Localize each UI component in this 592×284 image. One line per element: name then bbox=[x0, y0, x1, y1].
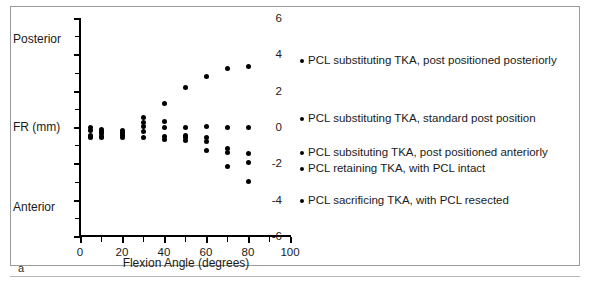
y-axis-tick bbox=[74, 163, 80, 165]
legend-item-label: PCL substituting TKA, standard post posi… bbox=[308, 112, 536, 125]
y-axis-tick-label: -4 bbox=[272, 194, 282, 206]
data-point bbox=[204, 139, 209, 144]
y-axis-tick bbox=[74, 18, 80, 20]
data-point bbox=[246, 179, 251, 184]
data-point bbox=[246, 151, 251, 156]
data-point bbox=[225, 164, 230, 169]
legend-item-label: PCL retaining TKA, with PCL intact bbox=[308, 162, 485, 175]
data-point bbox=[120, 135, 125, 140]
data-point bbox=[120, 130, 125, 135]
x-axis-tick bbox=[248, 237, 250, 243]
data-point bbox=[246, 125, 251, 130]
x-axis-minor-tick bbox=[101, 237, 102, 242]
data-point bbox=[225, 125, 230, 130]
panel-letter-label: a bbox=[18, 262, 24, 274]
data-point bbox=[141, 120, 146, 125]
y-axis-minor-tick bbox=[75, 182, 80, 183]
y-axis-tick bbox=[74, 54, 80, 56]
axis-direction-label-posterior: Posterior bbox=[13, 32, 61, 46]
data-point bbox=[99, 135, 104, 140]
y-axis-tick-label: 0 bbox=[276, 121, 282, 133]
y-axis-tick-label: -6 bbox=[272, 230, 282, 242]
data-point bbox=[141, 129, 146, 134]
x-axis-title: Flexion Angle (degrees) bbox=[80, 256, 292, 270]
x-axis-tick bbox=[80, 237, 82, 243]
x-axis-tick bbox=[122, 237, 124, 243]
x-axis-minor-tick bbox=[227, 237, 228, 242]
data-point bbox=[204, 74, 209, 79]
legend-item: PCL retaining TKA, with PCL intact bbox=[300, 162, 485, 175]
y-axis-tick-label: 6 bbox=[276, 12, 282, 24]
data-point bbox=[162, 101, 167, 106]
legend-item: PCL substituting TKA, post positioned po… bbox=[300, 54, 557, 67]
x-axis-tick bbox=[206, 237, 208, 243]
legend-marker-icon bbox=[300, 59, 304, 63]
y-axis-minor-tick bbox=[75, 109, 80, 110]
data-point bbox=[204, 124, 209, 129]
y-axis-tick-label: 4 bbox=[276, 48, 282, 60]
data-point bbox=[246, 160, 251, 165]
data-point bbox=[141, 135, 146, 140]
legend-item: PCL substituting TKA, standard post posi… bbox=[300, 112, 536, 125]
axis-direction-label-anterior: Anterior bbox=[13, 200, 55, 214]
data-point bbox=[246, 64, 251, 69]
legend-item-label: PCL substituting TKA, post positioned po… bbox=[308, 54, 557, 67]
y-axis-tick bbox=[74, 91, 80, 93]
x-axis-minor-tick bbox=[269, 237, 270, 242]
y-axis-minor-tick bbox=[75, 73, 80, 74]
legend-marker-icon bbox=[300, 151, 304, 155]
data-point bbox=[204, 148, 209, 153]
y-axis-tick-label: -2 bbox=[272, 157, 282, 169]
y-axis-tick bbox=[74, 127, 80, 129]
y-axis-minor-tick bbox=[75, 145, 80, 146]
y-axis-minor-tick bbox=[75, 36, 80, 37]
y-axis-title: FR (mm) bbox=[13, 120, 60, 134]
legend-item-label: PCL subsituting TKA, post positioned ant… bbox=[308, 146, 548, 159]
y-axis-tick bbox=[74, 200, 80, 202]
x-axis-minor-tick bbox=[185, 237, 186, 242]
data-point bbox=[183, 85, 188, 90]
y-axis-tick-label: 2 bbox=[276, 85, 282, 97]
data-point bbox=[162, 137, 167, 142]
legend-item: PCL sacrificing TKA, with PCL resected bbox=[300, 194, 509, 207]
data-point bbox=[162, 119, 167, 124]
x-axis-tick bbox=[164, 237, 166, 243]
x-axis-tick bbox=[290, 237, 292, 243]
data-point bbox=[183, 138, 188, 143]
legend-item-label: PCL sacrificing TKA, with PCL resected bbox=[308, 194, 509, 207]
y-axis-minor-tick bbox=[75, 218, 80, 219]
legend-marker-icon bbox=[300, 117, 304, 121]
data-point bbox=[88, 134, 93, 139]
data-point bbox=[99, 129, 104, 134]
bottom-divider-rule bbox=[10, 276, 580, 277]
x-axis-minor-tick bbox=[143, 237, 144, 242]
data-point bbox=[225, 66, 230, 71]
data-point bbox=[183, 125, 188, 130]
legend-item: PCL subsituting TKA, post positioned ant… bbox=[300, 146, 548, 159]
data-point bbox=[162, 125, 167, 130]
legend-marker-icon bbox=[300, 199, 304, 203]
legend-marker-icon bbox=[300, 167, 304, 171]
scatter-plot-area: -6-4-20246 020406080100 bbox=[80, 18, 290, 236]
figure-container: Posterior FR (mm) Anterior -6-4-20246 02… bbox=[0, 0, 592, 284]
data-point bbox=[225, 150, 230, 155]
